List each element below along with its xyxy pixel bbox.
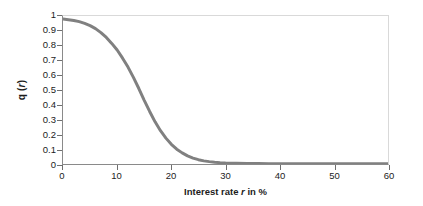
y-axis-title-post: ): [16, 80, 27, 84]
y-axis-tick-label: 0.9: [43, 25, 56, 35]
y-axis-title-pre: q (: [16, 87, 27, 100]
y-axis-title-variable: r: [16, 83, 27, 87]
y-axis-tick-label: 0.4: [43, 100, 56, 110]
x-axis-tick-label: 60: [384, 171, 395, 181]
chart-container: q (r) 00.10.20.30.40.50.60.70.80.91 0102…: [0, 0, 423, 206]
y-axis-tick-label: 0: [51, 160, 56, 170]
y-axis-tick-label: 0.5: [43, 85, 56, 95]
x-axis-title: Interest rate r in %: [62, 186, 389, 197]
x-axis-tick-mark: [171, 165, 172, 170]
y-axis-tick-mark: [57, 60, 62, 61]
x-axis-tick-label: 40: [275, 171, 286, 181]
y-axis-tick-label: 0.8: [43, 40, 56, 50]
x-axis-tick-mark: [117, 165, 118, 170]
y-axis-tick-mark: [57, 120, 62, 121]
y-axis-tick-labels: 00.10.20.30.40.50.60.70.80.91: [28, 10, 56, 165]
series-line-q-of-r: [63, 19, 388, 164]
y-axis-tick-label: 0.3: [43, 115, 56, 125]
y-axis-tick-label: 0.2: [43, 130, 56, 140]
y-axis-tick-mark: [57, 15, 62, 16]
y-axis-tick-label: 1: [51, 10, 56, 20]
x-axis-tick-mark: [389, 165, 390, 170]
y-axis-tick-label: 0.6: [43, 70, 56, 80]
y-axis-tick-mark: [57, 150, 62, 151]
y-axis-tick-mark: [57, 30, 62, 31]
y-axis-tick-mark: [57, 90, 62, 91]
x-axis-tick-label: 20: [166, 171, 177, 181]
curve-svg: [63, 16, 388, 164]
x-axis-tick-mark: [280, 165, 281, 170]
y-axis-tick-mark: [57, 105, 62, 106]
y-axis-tick-mark: [57, 75, 62, 76]
plot-area: [62, 15, 389, 165]
x-axis-title-pre: Interest rate: [184, 186, 241, 197]
x-axis-tick-label: 30: [220, 171, 231, 181]
x-axis-tick-mark: [62, 165, 63, 170]
y-axis-tick-label: 0.7: [43, 55, 56, 65]
x-axis-tick-label: 10: [111, 171, 122, 181]
x-axis-tick-label: 50: [329, 171, 340, 181]
x-axis-tick-mark: [226, 165, 227, 170]
x-axis-tick-labels: 0102030405060: [0, 171, 423, 185]
x-axis-tick-label: 0: [59, 171, 64, 181]
x-axis-title-post: in %: [245, 186, 267, 197]
y-axis-tick-mark: [57, 135, 62, 136]
y-axis-tick-mark: [57, 45, 62, 46]
x-axis-tick-mark: [335, 165, 336, 170]
y-axis-tick-label: 0.1: [43, 145, 56, 155]
